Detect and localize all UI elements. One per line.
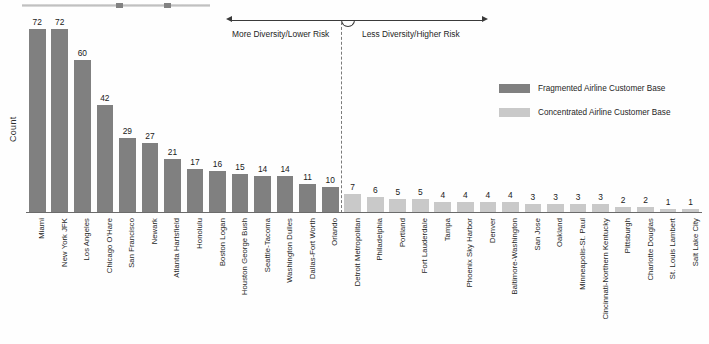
category-slot: Orlando — [319, 216, 342, 336]
bar[interactable]: 14 — [277, 176, 294, 212]
bar-value-label: 3 — [598, 192, 603, 202]
bar[interactable]: 5 — [412, 199, 429, 212]
category-slot: Detroit Metropolitan — [341, 216, 364, 336]
diversity-divider-line — [341, 22, 342, 213]
category-slot: Cincinnati-Northern Kentucky — [589, 216, 612, 336]
x-axis-category-labels: MiamiNew York JFKLos AngelesChicago O'Ha… — [26, 216, 702, 336]
bar-value-label: 15 — [235, 162, 244, 172]
bar-value-label: 3 — [531, 192, 536, 202]
bar-value-label: 5 — [418, 187, 423, 197]
bar-value-label: 72 — [33, 17, 42, 27]
category-label: Miami — [37, 218, 46, 239]
bar-value-label: 72 — [55, 17, 64, 27]
bar[interactable]: 14 — [254, 176, 271, 212]
category-slot: Chicago O'Hare — [94, 216, 117, 336]
bar[interactable]: 72 — [29, 29, 46, 212]
category-label: Denver — [488, 218, 497, 243]
category-slot: Atlanta Hartsfield — [161, 216, 184, 336]
category-slot: Boston Logan — [206, 216, 229, 336]
bar-slot: 7 — [341, 14, 364, 212]
bar[interactable]: 7 — [344, 194, 361, 212]
bar-slot: 3 — [567, 14, 590, 212]
bar[interactable]: 11 — [299, 184, 316, 212]
bar[interactable]: 4 — [457, 202, 474, 212]
category-slot: Los Angeles — [71, 216, 94, 336]
category-label: Charlotte Douglas — [646, 218, 655, 280]
bar[interactable]: 42 — [97, 105, 114, 212]
bar[interactable]: 27 — [142, 143, 159, 212]
category-label: Chicago O'Hare — [105, 218, 114, 273]
bar-value-label: 4 — [508, 190, 513, 200]
category-label: St. Louis Lambert — [668, 218, 677, 279]
category-slot: Portland — [387, 216, 410, 336]
bar-value-label: 5 — [395, 187, 400, 197]
category-label: Cincinnati-Northern Kentucky — [601, 218, 610, 320]
bar-value-label: 4 — [486, 190, 491, 200]
bar[interactable]: 60 — [74, 60, 91, 212]
bar[interactable]: 29 — [119, 138, 136, 212]
category-slot: Miami — [26, 216, 49, 336]
bar-value-label: 4 — [440, 190, 445, 200]
bar-slot: 5 — [387, 14, 410, 212]
category-label: Detroit Metropolitan — [353, 218, 362, 286]
category-label: Dallas-Fort Worth — [308, 218, 317, 279]
bar[interactable]: 4 — [434, 202, 451, 212]
bar[interactable]: 6 — [367, 197, 384, 212]
category-label: Seattle-Tacoma — [263, 218, 272, 272]
bar-slot: 4 — [499, 14, 522, 212]
bar-slot: 17 — [184, 14, 207, 212]
category-slot: Fort Lauderdale — [409, 216, 432, 336]
category-slot: San Francisco — [116, 216, 139, 336]
bar-value-label: 27 — [145, 131, 154, 141]
bar-slot: 21 — [161, 14, 184, 212]
bar[interactable]: 17 — [187, 169, 204, 212]
category-slot: Newark — [139, 216, 162, 336]
scan-artifact-strip — [22, 4, 210, 7]
category-label: Baltimore-Washington — [510, 218, 519, 294]
bar-value-label: 60 — [78, 48, 87, 58]
category-slot: Houston George Bush — [229, 216, 252, 336]
bar-value-label: 11 — [303, 172, 312, 182]
bar-slot: 60 — [71, 14, 94, 212]
bar-value-label: 2 — [621, 195, 626, 205]
bar-value-label: 3 — [576, 192, 581, 202]
bar[interactable]: 10 — [322, 187, 339, 212]
category-label: New York JFK — [60, 218, 69, 267]
bar-slot: 29 — [116, 14, 139, 212]
category-label: Fort Lauderdale — [420, 218, 429, 273]
category-label: Washington Dulles — [285, 218, 294, 283]
category-label: Atlanta Hartsfield — [172, 218, 181, 278]
category-label: Houston George Bush — [240, 218, 249, 295]
bar-slot: 11 — [296, 14, 319, 212]
bar-slot: 14 — [274, 14, 297, 212]
bar-slot: 72 — [49, 14, 72, 212]
category-label: Los Angeles — [82, 218, 91, 260]
category-slot: Dallas-Fort Worth — [296, 216, 319, 336]
category-slot: Oakland — [544, 216, 567, 336]
bar-slot: 3 — [522, 14, 545, 212]
bar[interactable]: 15 — [232, 174, 249, 212]
bar-slot: 14 — [251, 14, 274, 212]
category-slot: San Jose — [522, 216, 545, 336]
bar[interactable]: 72 — [51, 29, 68, 212]
bar-slot: 4 — [477, 14, 500, 212]
category-slot: Charlotte Douglas — [634, 216, 657, 336]
bar-slot: 27 — [139, 14, 162, 212]
category-slot: Seattle-Tacoma — [251, 216, 274, 336]
bar-value-label: 21 — [168, 147, 177, 157]
bar[interactable]: 16 — [209, 171, 226, 212]
category-label: Minneapolis-St. Paul — [578, 218, 587, 290]
bar-value-label: 10 — [325, 175, 334, 185]
bar[interactable]: 21 — [164, 159, 181, 212]
category-label: Honolulu — [195, 218, 204, 249]
category-label: Tampa — [443, 218, 452, 241]
bar-value-label: 7 — [350, 182, 355, 192]
bar[interactable]: 5 — [389, 199, 406, 212]
bar[interactable]: 4 — [502, 202, 519, 212]
bar-slot: 3 — [544, 14, 567, 212]
category-slot: Tampa — [432, 216, 455, 336]
bar-value-label: 29 — [123, 126, 132, 136]
bar[interactable]: 4 — [480, 202, 497, 212]
category-slot: New York JFK — [49, 216, 72, 336]
bar-slot: 1 — [657, 14, 680, 212]
